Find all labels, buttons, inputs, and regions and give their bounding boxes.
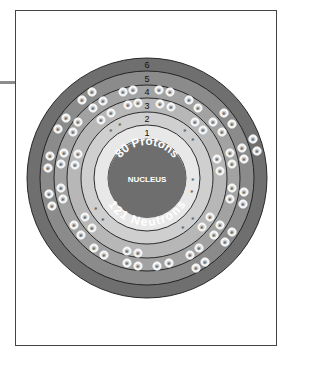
electron: e	[124, 101, 133, 110]
electron: e	[216, 221, 225, 230]
electron: e	[123, 247, 132, 256]
electron: e	[44, 164, 53, 173]
svg-text:e: e	[224, 239, 227, 245]
svg-text:e: e	[213, 232, 216, 238]
svg-text:e: e	[184, 127, 187, 133]
svg-text:e: e	[219, 168, 222, 174]
electron: e	[192, 264, 201, 273]
electron: e	[88, 224, 97, 233]
electron: e	[77, 231, 86, 240]
svg-text:e: e	[137, 100, 140, 106]
electron: e	[155, 86, 164, 95]
svg-text:e: e	[60, 185, 63, 191]
electron: e	[220, 109, 229, 118]
shell-label-1: 1	[144, 128, 149, 138]
electron: e	[165, 259, 174, 268]
electron: e	[54, 125, 63, 134]
electron: e	[62, 114, 71, 123]
electron: e	[153, 262, 162, 271]
electron: e	[218, 128, 227, 137]
svg-text:e: e	[216, 156, 219, 162]
electron: e	[99, 97, 108, 106]
svg-text:e: e	[182, 224, 185, 230]
svg-text:e: e	[80, 232, 83, 238]
electron: e	[239, 200, 248, 209]
svg-text:e: e	[231, 161, 234, 167]
svg-text:e: e	[137, 263, 140, 269]
svg-text:e: e	[92, 105, 95, 111]
svg-text:e: e	[209, 214, 212, 220]
svg-text:e: e	[188, 97, 191, 103]
svg-text:e: e	[126, 260, 129, 266]
svg-text:e: e	[243, 156, 246, 162]
electron: e	[129, 86, 138, 95]
electron: e	[240, 155, 249, 164]
svg-text:e: e	[77, 151, 80, 157]
svg-text:e: e	[119, 121, 122, 127]
svg-text:e: e	[63, 150, 66, 156]
electron: e	[186, 251, 195, 260]
electron: e	[213, 155, 222, 164]
electron: e	[46, 152, 55, 161]
svg-text:e: e	[223, 110, 226, 116]
svg-text:e: e	[191, 188, 194, 194]
electron: e	[210, 231, 219, 240]
svg-text:e: e	[242, 201, 245, 207]
electron: e	[119, 121, 122, 127]
electron: e	[201, 258, 210, 267]
electron: e	[195, 244, 204, 253]
electron: e	[88, 88, 97, 97]
svg-text:e: e	[51, 203, 54, 209]
electron: e	[134, 262, 143, 271]
electron: e	[238, 144, 247, 153]
electron: e	[228, 228, 237, 237]
electron: e	[59, 195, 68, 204]
electron: e	[209, 118, 218, 127]
svg-text:e: e	[103, 252, 106, 258]
electron: e	[240, 188, 249, 197]
svg-text:e: e	[77, 119, 80, 125]
svg-text:e: e	[91, 89, 94, 95]
electron: e	[226, 195, 235, 204]
electron: e	[74, 150, 83, 159]
svg-text:e: e	[122, 89, 125, 95]
shell-label-3: 3	[144, 101, 149, 111]
svg-text:e: e	[47, 165, 50, 171]
svg-text:e: e	[156, 263, 159, 269]
svg-text:e: e	[212, 119, 215, 125]
electron: e	[107, 109, 116, 118]
electron: e	[192, 215, 195, 221]
svg-text:e: e	[202, 127, 205, 133]
svg-text:e: e	[57, 126, 60, 132]
electron: e	[69, 128, 78, 137]
svg-text:e: e	[100, 117, 103, 123]
electron: e	[89, 104, 98, 113]
electron: e	[70, 221, 79, 230]
electron: e	[192, 176, 195, 182]
electron: e	[167, 103, 176, 112]
svg-text:e: e	[198, 245, 201, 251]
electron: e	[191, 118, 200, 127]
nucleus-label: NUCLEUS	[128, 175, 167, 184]
shell-label-4: 4	[144, 87, 149, 97]
svg-text:e: e	[102, 216, 105, 222]
electron: e	[221, 238, 230, 247]
svg-text:e: e	[231, 121, 234, 127]
svg-text:e: e	[62, 196, 65, 202]
svg-text:e: e	[231, 185, 234, 191]
svg-text:e: e	[74, 162, 77, 168]
svg-text:e: e	[243, 189, 246, 195]
svg-text:e: e	[197, 105, 200, 111]
electron: e	[57, 184, 66, 193]
electron: e	[134, 249, 143, 258]
svg-text:e: e	[194, 119, 197, 125]
svg-text:e: e	[132, 87, 135, 93]
svg-text:e: e	[73, 222, 76, 228]
svg-text:e: e	[127, 102, 130, 108]
svg-text:e: e	[256, 148, 259, 154]
electron: e	[48, 202, 57, 211]
electron: e	[81, 213, 90, 222]
svg-text:e: e	[189, 252, 192, 258]
shell-label-5: 5	[144, 74, 149, 84]
svg-text:e: e	[159, 101, 162, 107]
